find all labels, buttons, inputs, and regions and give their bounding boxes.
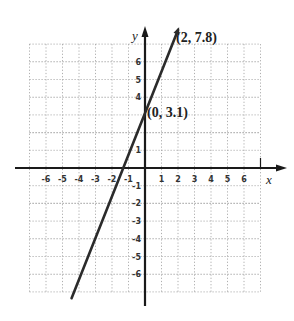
y-tick-label: -1 <box>132 182 141 191</box>
x-axis-label: x <box>265 172 272 187</box>
x-tick-label: 2 <box>175 175 181 184</box>
point-label-top: (2, 7.8) <box>176 30 217 46</box>
y-tick-label: -3 <box>132 217 141 226</box>
coordinate-plane: -6-5-4-3-2-11234566541-1-2-3-4-5-6 (0, 3… <box>0 0 294 321</box>
y-tick-label: -2 <box>132 199 141 208</box>
y-axis-label: y <box>130 28 138 43</box>
x-tick-label: -5 <box>58 175 67 184</box>
x-tick-label: -3 <box>91 175 100 184</box>
x-tick-label: 4 <box>208 175 214 184</box>
y-tick-label: -4 <box>132 235 141 244</box>
x-tick-label: 6 <box>241 175 247 184</box>
x-tick-label: -4 <box>75 175 84 184</box>
y-tick-label: -6 <box>132 270 141 279</box>
x-tick-label: -6 <box>42 175 51 184</box>
plotted-line <box>72 30 178 298</box>
y-tick-label: -5 <box>132 253 141 262</box>
x-tick-label: 3 <box>192 175 198 184</box>
point-label-y-intercept: (0, 3.1) <box>147 105 188 121</box>
y-axis-arrow-icon <box>142 26 149 37</box>
x-tick-label: -2 <box>108 175 117 184</box>
y-tick-label: 4 <box>135 93 141 102</box>
y-tick-label: 1 <box>135 146 141 155</box>
data-line <box>72 27 180 298</box>
x-tick-label: 1 <box>159 175 165 184</box>
point-annotations: (0, 3.1)(2, 7.8) <box>147 30 217 121</box>
axes <box>15 26 287 306</box>
x-axis-arrow-icon <box>276 165 287 172</box>
y-tick-label: 5 <box>135 76 141 85</box>
y-tick-label: 6 <box>135 58 141 67</box>
x-tick-label: 5 <box>225 175 231 184</box>
